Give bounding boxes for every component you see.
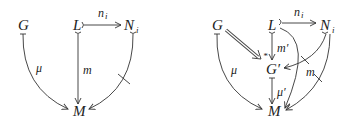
svg-text:i: i: [105, 11, 108, 21]
node-L: L: [267, 17, 276, 33]
node-G: G: [212, 17, 223, 33]
svg-text:m′: m′: [277, 41, 289, 55]
svg-text:i: i: [301, 10, 304, 20]
node-L: L: [72, 17, 81, 33]
svg-text:m: m: [306, 65, 315, 79]
svg-text:μ: μ: [35, 61, 42, 75]
arrow-G-to-M: μ: [20, 34, 68, 109]
arrow-G-to-M: μ: [214, 34, 262, 109]
diagram-left: G L N i M n i m μ: [18, 6, 139, 119]
svg-text:*: *: [263, 51, 268, 61]
svg-text:n: n: [98, 6, 104, 20]
svg-text:N: N: [319, 17, 331, 33]
node-G-prime: G′: [266, 61, 281, 77]
arrow-G-prime-to-M: μ′: [269, 78, 286, 104]
arrow-N-to-G-prime: [284, 32, 328, 68]
commutative-diagrams: G L N i M n i m μ: [0, 0, 350, 130]
svg-text:μ′: μ′: [276, 85, 286, 99]
double-arrow-G-to-G-prime: *: [226, 30, 268, 61]
node-G: G: [18, 17, 29, 33]
arrow-L-to-N: n i: [279, 5, 316, 25]
arrow-N-to-M: [89, 32, 136, 109]
diagram-right: G L N i G′ M n i * m′: [212, 5, 335, 119]
arrow-L-to-G-prime: m′: [269, 32, 289, 60]
node-M: M: [72, 103, 87, 119]
svg-text:μ: μ: [230, 63, 237, 77]
arrow-L-to-M: m: [75, 32, 92, 104]
svg-text:m: m: [83, 63, 92, 77]
svg-text:N: N: [123, 17, 135, 33]
svg-text:i: i: [136, 25, 139, 35]
arrow-L-to-N: n i: [82, 6, 121, 28]
svg-text:n: n: [294, 5, 300, 19]
svg-text:i: i: [332, 25, 335, 35]
node-M: M: [267, 103, 282, 119]
